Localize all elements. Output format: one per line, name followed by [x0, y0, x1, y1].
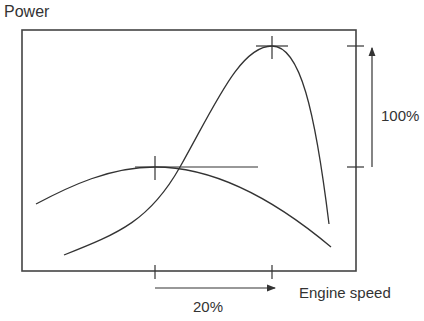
- peaked-power-curve: [64, 46, 329, 255]
- vertical-span-label: 100%: [381, 107, 419, 124]
- x-axis-label: Engine speed: [299, 284, 391, 301]
- y-axis-label: Power: [4, 3, 49, 21]
- horizontal-span-label: 20%: [193, 298, 223, 315]
- power-diagram: [0, 0, 424, 321]
- broad-power-curve: [36, 167, 331, 247]
